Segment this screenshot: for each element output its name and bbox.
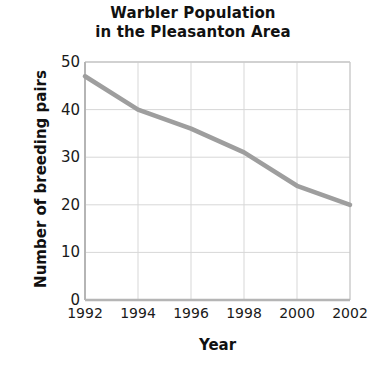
axis-lines: [85, 62, 350, 300]
data-line-breeding-pairs: [85, 76, 350, 205]
chart-figure: Warbler Population in the Pleasanton Are…: [0, 0, 386, 371]
grid-lines: [85, 62, 350, 300]
plot-area: [0, 0, 386, 371]
